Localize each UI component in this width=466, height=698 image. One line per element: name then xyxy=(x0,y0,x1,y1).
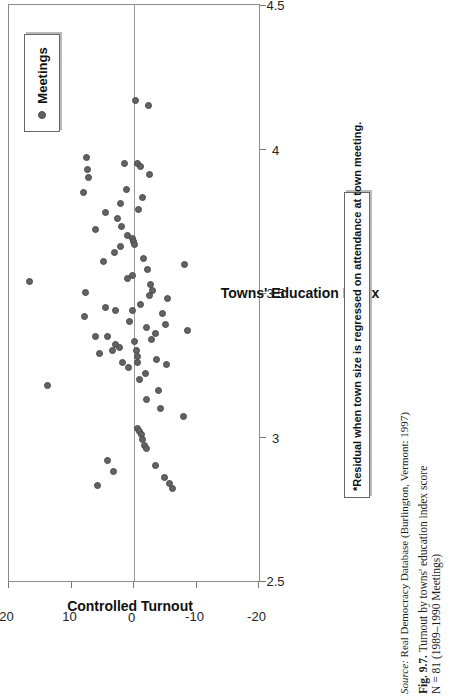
data-point xyxy=(117,200,124,207)
x-axis-tick-label: 4 xyxy=(268,130,283,170)
legend-label-meetings: Meetings xyxy=(35,47,50,103)
data-point xyxy=(96,350,103,357)
data-point xyxy=(104,457,111,464)
filled-circle-icon xyxy=(38,111,46,119)
data-point xyxy=(169,485,176,492)
data-point xyxy=(84,166,91,173)
data-point xyxy=(100,258,107,265)
data-point xyxy=(143,324,150,331)
data-point xyxy=(26,278,33,285)
data-point xyxy=(114,215,121,222)
data-point xyxy=(102,209,109,216)
x-axis-tick-label: 4.5 xyxy=(268,0,283,26)
x-axis-tick xyxy=(260,5,266,6)
data-point xyxy=(159,310,166,317)
data-point xyxy=(85,174,92,181)
data-point xyxy=(129,307,136,314)
data-point xyxy=(137,301,144,308)
y-axis-ticks: 20100-10-20 xyxy=(8,582,260,592)
footnote-rotated-container: *Residual when town size is regressed on… xyxy=(344,192,370,498)
y-axis-tick xyxy=(8,582,9,588)
data-point xyxy=(157,405,164,412)
data-point xyxy=(80,189,87,196)
y-axis-tick xyxy=(196,582,197,588)
chart-legend: Meetings xyxy=(24,34,60,132)
data-point xyxy=(164,295,171,302)
data-point xyxy=(181,261,188,268)
data-point xyxy=(180,413,187,420)
footnote-box: *Residual when town size is regressed on… xyxy=(344,192,370,498)
data-point xyxy=(82,290,89,297)
data-point xyxy=(116,344,123,351)
caption-source-line: Source: Real Democracy Database (Burling… xyxy=(398,488,410,694)
data-point xyxy=(121,160,128,167)
data-point xyxy=(135,206,142,213)
data-point xyxy=(153,356,160,363)
data-point xyxy=(136,376,143,383)
data-point xyxy=(44,382,51,389)
data-point xyxy=(117,243,124,250)
data-point xyxy=(123,186,130,193)
caption-source-text: Real Democracy Database (Burlington, Ver… xyxy=(398,412,410,660)
data-point xyxy=(145,102,152,109)
y-axis-title: Controlled Turnout xyxy=(4,598,256,614)
zero-reference-line xyxy=(134,5,135,581)
y-axis-tick xyxy=(258,582,259,588)
y-axis-tick xyxy=(71,582,72,588)
data-point xyxy=(109,347,116,354)
x-axis-tick xyxy=(260,581,266,582)
figure-rotated-container: Meetings 2.533.544.5 Towns' Education In… xyxy=(0,0,330,640)
data-point xyxy=(140,255,147,262)
x-axis-tick-label: 3 xyxy=(268,418,283,458)
caption-figure-line: Fig. 9.7. Turnout by towns' education in… xyxy=(417,488,429,694)
data-point xyxy=(125,364,132,371)
data-point xyxy=(92,226,99,233)
data-point xyxy=(142,370,149,377)
data-point xyxy=(162,321,169,328)
data-point xyxy=(126,318,133,325)
caption-rotated-container: Source: Real Democracy Database (Burling… xyxy=(398,488,460,694)
caption-n-line: N = 81 (1989–1990 Meetings) xyxy=(430,488,442,694)
caption-source-word: Source: xyxy=(398,660,410,694)
data-point xyxy=(146,292,153,299)
scatter-chart: Meetings 2.533.544.5 Towns' Education In… xyxy=(0,0,330,640)
data-point xyxy=(111,249,118,256)
data-point xyxy=(148,336,155,343)
data-point xyxy=(163,362,170,369)
data-point xyxy=(144,266,151,273)
data-point xyxy=(132,97,139,104)
data-point xyxy=(129,272,136,279)
x-axis-tick xyxy=(260,149,266,150)
data-point xyxy=(131,338,138,345)
data-point xyxy=(155,387,162,394)
data-point xyxy=(83,154,90,161)
data-point xyxy=(131,241,138,248)
data-point xyxy=(143,445,150,452)
caption-figure-title: Turnout by towns' education index score xyxy=(417,466,429,655)
x-axis-tick xyxy=(260,437,266,438)
data-point xyxy=(137,163,144,170)
data-point xyxy=(118,223,125,230)
x-axis-tick-label: 2.5 xyxy=(268,562,283,602)
caption-figure-number: Fig. 9.7. xyxy=(417,655,429,694)
data-point xyxy=(134,359,141,366)
y-axis-tick xyxy=(133,582,134,588)
data-point xyxy=(92,333,99,340)
data-point xyxy=(146,171,153,178)
data-point xyxy=(110,468,117,475)
data-point xyxy=(94,482,101,489)
data-point xyxy=(184,327,191,334)
data-point xyxy=(152,462,159,469)
data-point xyxy=(143,396,150,403)
data-point xyxy=(81,313,88,320)
x-axis-title: Towns' Education Index xyxy=(292,4,308,582)
data-point xyxy=(102,304,109,311)
data-point xyxy=(139,194,146,201)
figure-caption: Source: Real Democracy Database (Burling… xyxy=(398,488,442,694)
data-point xyxy=(104,333,111,340)
data-point xyxy=(112,307,119,314)
